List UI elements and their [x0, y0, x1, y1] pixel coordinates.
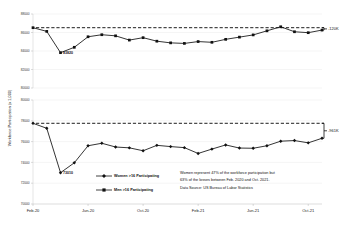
x-axis-tick-label: Oct-21: [302, 208, 315, 213]
legend-item-men-marker: [102, 188, 105, 191]
annotation-line-2: 63% of the losses between Feb. 2020 and …: [180, 178, 270, 182]
x-axis-tick-label: Oct-20: [137, 208, 150, 213]
legend-item-women-label: Women >16 Participating: [114, 174, 160, 178]
legend-item-men-label: Men >16 Participating: [114, 188, 154, 192]
y-axis-tick-label: 80000: [21, 98, 30, 102]
annotation-line-1: Women represent 47% of the workforce par…: [180, 171, 276, 175]
delta-bracket: [322, 123, 324, 138]
data-point-marker: [307, 31, 310, 34]
data-point-marker: [211, 41, 214, 44]
data-point-marker: [251, 147, 254, 150]
data-point-marker: [73, 46, 76, 49]
y-axis-tick-label: 86000: [21, 31, 30, 35]
series-line-women: [33, 123, 322, 172]
y-axis-tick-label: 84000: [21, 49, 30, 53]
data-point-marker: [183, 42, 186, 45]
data-point-marker: [238, 146, 241, 149]
data-point-marker: [100, 33, 103, 36]
data-point-marker: [155, 144, 158, 147]
y-axis-tick-label: 70000: [21, 202, 30, 206]
y-axis-title: Workforce Participation (x 1,000): [7, 89, 12, 146]
data-point-marker: [128, 146, 131, 149]
y-axis-tick-label: 76000: [21, 140, 30, 144]
data-point-marker: [114, 145, 117, 148]
chart-canvas: 800008200084000860008800083820-120K70000…: [0, 0, 354, 235]
y-axis-tick-label: 78000: [21, 119, 30, 123]
data-point-marker: [87, 35, 90, 38]
data-point-marker: [45, 30, 48, 33]
workforce-participation-figure: 800008200084000860008800083820-120K70000…: [0, 0, 354, 235]
legend-box: [92, 168, 176, 198]
data-point-marker: [128, 39, 131, 42]
x-axis-tick-label: Jun-21: [247, 208, 260, 213]
y-axis-tick-label: 80000: [21, 86, 30, 90]
data-point-marker: [265, 144, 268, 147]
y-axis-tick-label: 74000: [21, 161, 30, 165]
x-axis-tick-label: Jun-20: [82, 208, 95, 213]
data-point-marker: [183, 146, 186, 149]
data-point-marker: [45, 127, 48, 130]
data-point-marker: [279, 25, 282, 28]
delta-label: -120K: [328, 26, 339, 31]
data-point-marker: [197, 40, 200, 43]
annotation-source: Data Source: US Bureau of Labor Statisti…: [180, 186, 253, 190]
y-axis-tick-label: 88000: [21, 12, 30, 16]
data-point-marker: [59, 51, 62, 54]
x-axis-tick-label: Feb-20: [27, 208, 40, 213]
series-line-men: [33, 27, 322, 53]
data-point-marker: [210, 147, 213, 150]
data-point-marker: [196, 152, 199, 155]
data-point-marker: [156, 40, 159, 43]
data-point-marker: [224, 38, 227, 41]
delta-label: -961K: [328, 128, 339, 133]
data-point-label: 83820: [63, 51, 73, 55]
data-point-marker: [293, 30, 296, 33]
data-point-marker: [169, 145, 172, 148]
data-point-marker: [31, 122, 34, 125]
data-point-marker: [141, 149, 144, 152]
data-point-marker: [169, 42, 172, 45]
data-point-marker: [32, 26, 35, 29]
data-point-marker: [252, 34, 255, 37]
data-point-marker: [114, 34, 117, 37]
x-axis-tick-label: Feb-21: [192, 208, 205, 213]
data-point-marker: [100, 142, 103, 145]
data-point-marker: [266, 29, 269, 32]
data-point-label: 73010: [63, 171, 73, 175]
y-axis-tick-label: 82000: [21, 68, 30, 72]
data-point-marker: [142, 36, 145, 39]
data-point-marker: [224, 143, 227, 146]
y-axis-tick-label: 72000: [21, 181, 30, 185]
data-point-marker: [279, 139, 282, 142]
data-point-marker: [238, 36, 241, 39]
